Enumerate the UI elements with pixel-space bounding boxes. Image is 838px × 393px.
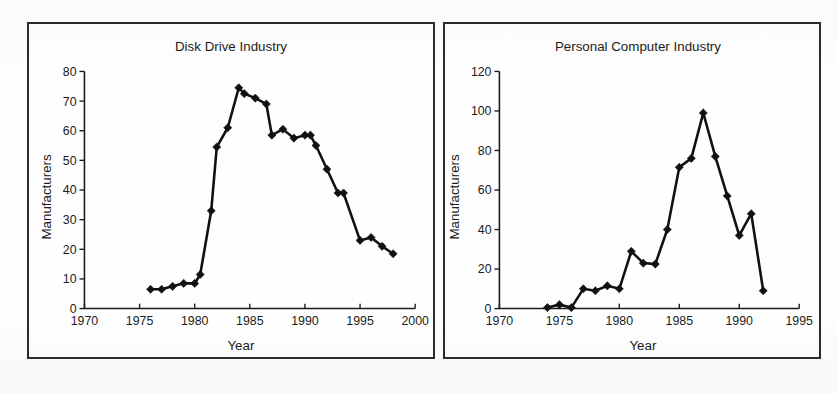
data-point-marker (323, 165, 331, 173)
figure-two-industry-line-charts: Disk Drive Industry 01020304050607080 19… (0, 0, 838, 393)
y-tick-label: 100 (471, 104, 492, 118)
personal-computer-y-tick-labels: 020406080100120 (471, 65, 492, 316)
y-tick-label: 20 (63, 243, 77, 257)
x-tick-label: 1985 (236, 314, 264, 328)
y-tick-label: 80 (63, 65, 77, 79)
y-tick-label: 70 (63, 95, 77, 109)
y-tick-label: 40 (478, 223, 492, 237)
data-point-marker (207, 207, 215, 215)
y-tick-label: 80 (478, 144, 492, 158)
y-axis-title-personal-computer: Manufacturers (447, 154, 462, 239)
data-point-marker (339, 189, 347, 197)
y-tick-label: 30 (63, 213, 77, 227)
x-tick-label: 1980 (606, 314, 634, 328)
y-tick-label: 20 (478, 263, 492, 277)
disk-drive-x-tick-labels: 1970197519801985199019952000 (71, 314, 429, 328)
data-point-marker (663, 225, 671, 233)
data-point-marker (759, 287, 767, 295)
y-tick-label: 60 (478, 183, 492, 197)
x-tick-label: 1985 (666, 314, 694, 328)
chart-title-disk-drive: Disk Drive Industry (175, 39, 287, 54)
x-axis-title-personal-computer: Year (629, 338, 657, 353)
x-tick-label: 1995 (346, 314, 374, 328)
data-point-marker (615, 285, 623, 293)
y-tick-label: 50 (63, 154, 77, 168)
data-point-marker (591, 287, 599, 295)
disk-drive-chart-svg: Disk Drive Industry 01020304050607080 19… (29, 24, 433, 357)
data-point-marker (723, 192, 731, 200)
data-point-marker (356, 236, 364, 244)
personal-computer-data-markers (543, 109, 767, 312)
personal-computer-x-tick-labels: 197019751980198519901995 (486, 314, 813, 328)
personal-computer-series-line (547, 113, 763, 308)
chart-panel-personal-computer: Personal Computer Industry 0204060801001… (443, 22, 821, 359)
x-tick-label: 1970 (71, 314, 99, 328)
x-tick-label: 1970 (486, 314, 514, 328)
y-tick-label: 40 (63, 183, 77, 197)
data-point-marker (543, 304, 551, 312)
data-point-marker (158, 285, 166, 293)
x-tick-label: 2000 (401, 314, 429, 328)
y-tick-label: 10 (63, 272, 77, 286)
y-tick-label: 60 (63, 124, 77, 138)
x-tick-label: 1990 (291, 314, 319, 328)
chart-panel-disk-drive: Disk Drive Industry 01020304050607080 19… (27, 22, 435, 359)
x-tick-label: 1990 (726, 314, 754, 328)
data-point-marker (180, 279, 188, 287)
disk-drive-data-markers (147, 84, 398, 294)
data-point-marker (651, 260, 659, 268)
data-point-marker (711, 152, 719, 160)
disk-drive-y-tick-labels: 01020304050607080 (63, 65, 77, 316)
personal-computer-chart-svg: Personal Computer Industry 0204060801001… (445, 24, 819, 357)
x-tick-label: 1975 (126, 314, 154, 328)
chart-title-personal-computer: Personal Computer Industry (555, 39, 721, 54)
disk-drive-axes (80, 71, 416, 308)
data-point-marker (169, 282, 177, 290)
x-tick-label: 1995 (785, 314, 813, 328)
x-axis-title-disk-drive: Year (227, 338, 255, 353)
data-point-marker (699, 109, 707, 117)
x-tick-label: 1975 (546, 314, 574, 328)
disk-drive-series-line (151, 88, 394, 290)
data-point-marker (147, 285, 155, 293)
data-point-marker (603, 282, 611, 290)
x-tick-label: 1980 (181, 314, 209, 328)
personal-computer-axes (494, 71, 799, 308)
y-axis-title-disk-drive: Manufacturers (39, 154, 54, 240)
data-point-marker (555, 301, 563, 309)
y-tick-label: 120 (471, 65, 492, 79)
